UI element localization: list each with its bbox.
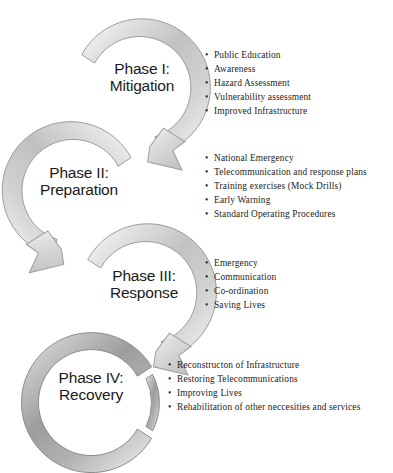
list-item-text: Training exercises (Mock Drills) xyxy=(214,181,342,191)
bullet-icon: • xyxy=(205,165,208,179)
bullet-icon: • xyxy=(205,90,208,104)
list-item-text: Telecommunication and response plans xyxy=(214,167,367,177)
list-item: •Reconstructon of Infrastructure xyxy=(168,358,360,372)
list-item: •Communication xyxy=(205,270,276,284)
bullet-icon: • xyxy=(205,270,208,284)
list-item: •Rehabilitation of other neccesities and… xyxy=(168,400,360,414)
phase-3-label-line1: Phase III: xyxy=(112,267,175,284)
list-item-text: Co-ordination xyxy=(214,286,269,296)
phase-1-bullets: •Public Education •Awareness •Hazard Ass… xyxy=(205,48,311,118)
bullet-icon: • xyxy=(205,104,208,118)
list-item: •Hazard Assessment xyxy=(205,76,311,90)
phase-4-label-line1: Phase IV: xyxy=(59,369,124,386)
list-item-text: Hazard Assessment xyxy=(214,78,290,88)
bullet-icon: • xyxy=(205,298,208,312)
bullet-icon: • xyxy=(205,76,208,90)
list-item: •Awareness xyxy=(205,62,311,76)
list-item: •Restoring Telecommunications xyxy=(168,372,360,386)
phase-3-label-line2: Response xyxy=(89,284,199,301)
list-item: •Saving Lives xyxy=(205,298,276,312)
list-item-text: Rehabilitation of other neccesities and … xyxy=(177,402,360,412)
phase-1-label: Phase I: Mitigation xyxy=(88,60,196,95)
list-item: •National Emergency xyxy=(205,151,367,165)
phase-1-label-line2: Mitigation xyxy=(88,77,196,94)
phase-1-label-line1: Phase I: xyxy=(114,60,169,77)
phase-3-label: Phase III: Response xyxy=(89,267,199,302)
bullet-icon: • xyxy=(168,372,171,386)
list-item-text: Saving Lives xyxy=(214,300,265,310)
list-item-text: Improving Lives xyxy=(177,388,242,398)
list-item-text: Communication xyxy=(214,272,276,282)
bullet-icon: • xyxy=(205,179,208,193)
bullet-icon: • xyxy=(168,358,171,372)
list-item: •Improved Infrastructure xyxy=(205,104,311,118)
bullet-icon: • xyxy=(168,386,171,400)
phase-2-arrow-ring xyxy=(2,122,131,281)
phase-3-bullet-list: •Emergency •Communication •Co-ordination… xyxy=(205,256,276,312)
phase-1-arrow-ring xyxy=(82,19,211,178)
phase-2-bullets: •National Emergency •Telecommunication a… xyxy=(205,151,367,221)
bullet-icon: • xyxy=(205,62,208,76)
bullet-icon: • xyxy=(205,193,208,207)
list-item-text: Emergency xyxy=(214,258,258,268)
bullet-icon: • xyxy=(205,284,208,298)
bullet-icon: • xyxy=(205,207,208,221)
list-item-text: Restoring Telecommunications xyxy=(177,374,298,384)
bullet-icon: • xyxy=(205,151,208,165)
phase-4-bullet-list: •Reconstructon of Infrastructure •Restor… xyxy=(168,358,360,414)
list-item: •Early Warning xyxy=(205,193,367,207)
bullet-icon: • xyxy=(205,48,208,62)
list-item-text: Improved Infrastructure xyxy=(214,106,307,116)
list-item-text: National Emergency xyxy=(214,153,294,163)
list-item: •Co-ordination xyxy=(205,284,276,298)
list-item: •Telecommunication and response plans xyxy=(205,165,367,179)
list-item: •Vulnerability assessment xyxy=(205,90,311,104)
list-item-text: Reconstructon of Infrastructure xyxy=(177,360,299,370)
list-item-text: Awareness xyxy=(214,64,256,74)
bullet-icon: • xyxy=(168,400,171,414)
bullet-icon: • xyxy=(205,256,208,270)
list-item: •Improving Lives xyxy=(168,386,360,400)
list-item-text: Public Education xyxy=(214,50,281,60)
phase-4-label-line2: Recovery xyxy=(36,386,146,403)
phase-1-bullet-list: •Public Education •Awareness •Hazard Ass… xyxy=(205,48,311,118)
list-item-text: Standard Operating Procedures xyxy=(214,209,336,219)
phase-4-bullets: •Reconstructon of Infrastructure •Restor… xyxy=(168,358,360,414)
list-item: •Emergency xyxy=(205,256,276,270)
phase-2-bullet-list: •National Emergency •Telecommunication a… xyxy=(205,151,367,221)
phase-3-bullets: •Emergency •Communication •Co-ordination… xyxy=(205,256,276,312)
phase-2-label-line2: Preparation xyxy=(22,181,136,198)
phase-2-label: Phase II: Preparation xyxy=(22,164,136,199)
phase-4-label: Phase IV: Recovery xyxy=(36,369,146,404)
list-item-text: Vulnerability assessment xyxy=(214,92,311,102)
disaster-management-cycle-diagram: Phase I: Mitigation Phase II: Preparatio… xyxy=(0,0,393,473)
phase-2-label-line1: Phase II: xyxy=(49,164,108,181)
list-item: •Public Education xyxy=(205,48,311,62)
list-item: •Standard Operating Procedures xyxy=(205,207,367,221)
list-item: •Training exercises (Mock Drills) xyxy=(205,179,367,193)
list-item-text: Early Warning xyxy=(214,195,270,205)
